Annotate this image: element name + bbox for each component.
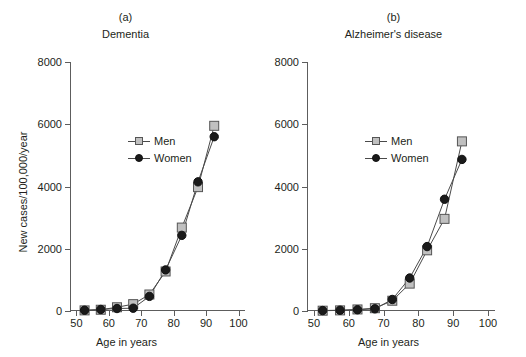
data-point-women bbox=[423, 242, 431, 250]
panel-b-letter: (b) bbox=[262, 11, 525, 24]
x-tick bbox=[109, 311, 110, 316]
x-tick bbox=[239, 311, 240, 316]
data-point-women bbox=[145, 292, 153, 300]
panel-dementia: (a) Dementia New cases/100,000/year 0200… bbox=[0, 0, 263, 357]
x-tick-label: 50 bbox=[308, 318, 320, 329]
data-point-women bbox=[406, 274, 414, 282]
data-point-men bbox=[440, 214, 449, 223]
data-point-women bbox=[210, 133, 218, 141]
x-tick bbox=[314, 311, 315, 316]
series-layer-dementia bbox=[70, 62, 245, 311]
x-tick-label: 70 bbox=[377, 318, 389, 329]
x-tick-label: 80 bbox=[168, 318, 180, 329]
data-point-women bbox=[129, 304, 137, 312]
legend-item-women: Women bbox=[365, 150, 429, 167]
x-tick-label: 60 bbox=[103, 318, 115, 329]
data-point-women bbox=[178, 231, 186, 239]
data-point-women bbox=[113, 304, 121, 312]
x-tick-label: 90 bbox=[447, 318, 459, 329]
x-tick-label: 50 bbox=[70, 318, 82, 329]
y-axis-title: New cases/100,000/year bbox=[17, 107, 29, 277]
legend-label-women: Women bbox=[391, 153, 429, 164]
plot-area-dementia: 020004000600080005060708090100 bbox=[70, 62, 245, 311]
y-tick bbox=[65, 124, 70, 125]
data-point-women bbox=[336, 306, 344, 314]
legend-item-men: Men bbox=[365, 133, 429, 150]
y-tick bbox=[65, 62, 70, 63]
data-point-women bbox=[371, 305, 379, 313]
legend-alzheimers: Men Women bbox=[365, 133, 429, 167]
data-point-women bbox=[97, 305, 105, 313]
women-marker-icon bbox=[128, 153, 150, 164]
y-tick-label: 0 bbox=[293, 306, 299, 317]
data-point-women bbox=[353, 306, 361, 314]
x-tick bbox=[453, 311, 454, 316]
legend-label-women: Women bbox=[154, 153, 192, 164]
x-tick bbox=[174, 311, 175, 316]
y-tick-label: 8000 bbox=[38, 57, 62, 68]
panel-a-title: Dementia bbox=[0, 28, 257, 41]
data-point-women bbox=[440, 195, 448, 203]
data-point-women bbox=[194, 178, 202, 186]
x-tick bbox=[418, 311, 419, 316]
x-tick-label: 80 bbox=[412, 318, 424, 329]
men-marker-icon bbox=[128, 136, 150, 147]
data-point-men bbox=[457, 137, 466, 146]
series-layer-alzheimers bbox=[307, 62, 495, 311]
plot-area-alzheimers: 020004000600080005060708090100 bbox=[307, 62, 495, 311]
legend-item-men: Men bbox=[128, 133, 192, 150]
y-tick-label: 0 bbox=[56, 306, 62, 317]
legend-label-men: Men bbox=[154, 136, 175, 147]
legend-item-women: Women bbox=[128, 150, 192, 167]
figure-incidence-by-age: (a) Dementia New cases/100,000/year 0200… bbox=[0, 0, 526, 357]
y-tick bbox=[302, 187, 307, 188]
panel-a-letter: (a) bbox=[0, 11, 257, 24]
men-marker-icon bbox=[365, 136, 387, 147]
y-tick bbox=[302, 124, 307, 125]
x-tick-label: 60 bbox=[343, 318, 355, 329]
x-tick-label: 90 bbox=[200, 318, 212, 329]
x-tick bbox=[488, 311, 489, 316]
y-tick-label: 8000 bbox=[275, 57, 299, 68]
data-point-women bbox=[458, 155, 466, 163]
panel-b-title: Alzheimer's disease bbox=[262, 28, 525, 41]
x-tick bbox=[206, 311, 207, 316]
x-tick bbox=[76, 311, 77, 316]
y-tick-label: 6000 bbox=[275, 119, 299, 130]
legend-dementia: Men Women bbox=[128, 133, 192, 167]
x-axis-title-a: Age in years bbox=[0, 336, 258, 348]
data-point-men bbox=[210, 121, 219, 130]
y-tick-label: 6000 bbox=[38, 119, 62, 130]
x-tick-label: 100 bbox=[229, 318, 247, 329]
data-point-women bbox=[388, 295, 396, 303]
x-tick-label: 100 bbox=[479, 318, 497, 329]
panel-alzheimers: (b) Alzheimer's disease 0200040006000800… bbox=[263, 0, 526, 357]
y-tick bbox=[65, 311, 70, 312]
data-point-women bbox=[161, 266, 169, 274]
y-tick-label: 2000 bbox=[275, 243, 299, 254]
y-tick bbox=[302, 249, 307, 250]
y-tick-label: 4000 bbox=[275, 181, 299, 192]
women-marker-icon bbox=[365, 153, 387, 164]
series-line-women bbox=[323, 159, 462, 310]
x-tick bbox=[384, 311, 385, 316]
y-tick bbox=[65, 187, 70, 188]
x-axis-title-b: Age in years bbox=[257, 336, 520, 348]
y-tick bbox=[302, 311, 307, 312]
y-tick-label: 4000 bbox=[38, 181, 62, 192]
y-tick-label: 2000 bbox=[38, 243, 62, 254]
data-point-women bbox=[318, 306, 326, 314]
x-tick-label: 70 bbox=[135, 318, 147, 329]
data-point-women bbox=[80, 306, 88, 314]
x-tick bbox=[349, 311, 350, 316]
legend-label-men: Men bbox=[391, 136, 412, 147]
x-tick bbox=[141, 311, 142, 316]
y-tick bbox=[302, 62, 307, 63]
y-tick bbox=[65, 249, 70, 250]
